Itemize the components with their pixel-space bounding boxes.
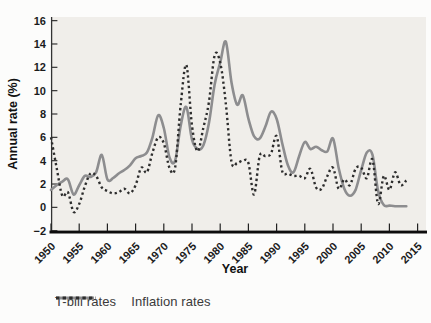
x-tick-label: 1970 bbox=[144, 240, 170, 266]
plot-area bbox=[51, 17, 426, 231]
x-tick-label: 2005 bbox=[342, 240, 368, 266]
y-tick-label: 10 bbox=[34, 85, 46, 97]
y-tick-label: 12 bbox=[34, 61, 46, 73]
x-tick-label: 2010 bbox=[370, 240, 396, 266]
y-tick-label: 0 bbox=[40, 201, 46, 213]
y-tick-label: 8 bbox=[40, 108, 46, 120]
x-tick-label: 1995 bbox=[285, 240, 311, 266]
x-tick-label: 1960 bbox=[88, 240, 114, 266]
legend: T-bill rates Inflation rates bbox=[55, 294, 211, 309]
legend-item-inflation: Inflation rates bbox=[131, 294, 211, 309]
y-tick-label: 16 bbox=[34, 15, 46, 27]
y-tick-label: −2 bbox=[33, 225, 46, 237]
x-axis-title: Year bbox=[222, 262, 249, 276]
x-axis-heavy-line bbox=[50, 231, 428, 234]
x-tick-label: 2000 bbox=[314, 240, 340, 266]
legend-label-inflation: Inflation rates bbox=[131, 294, 211, 309]
x-tick-label: 1990 bbox=[257, 240, 283, 266]
x-tick-label: 1975 bbox=[173, 240, 199, 266]
inflation-dotted-swatch-icon bbox=[55, 294, 97, 302]
y-tick-label: 6 bbox=[40, 131, 46, 143]
y-tick-label: 4 bbox=[40, 155, 47, 167]
x-tick-label: 1950 bbox=[32, 240, 58, 266]
chart-svg: 1614121086420−2 195019551960196519701975… bbox=[0, 0, 431, 323]
y-tick-label: 14 bbox=[34, 38, 47, 50]
y-tick-label: 2 bbox=[40, 178, 46, 190]
chart-container: 1614121086420−2 195019551960196519701975… bbox=[0, 0, 431, 323]
x-tick-label: 2015 bbox=[398, 240, 424, 266]
x-tick-label: 1955 bbox=[60, 240, 86, 266]
x-tick-label: 1965 bbox=[116, 240, 142, 266]
y-axis-title: Annual rate (%) bbox=[6, 78, 20, 170]
